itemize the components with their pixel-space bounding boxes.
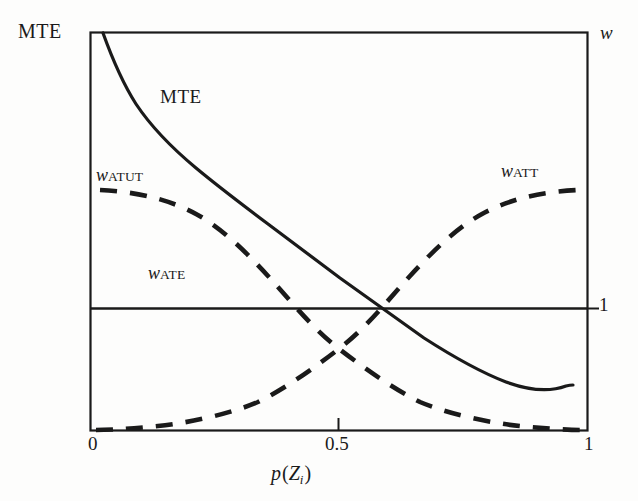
curve-w-att [96,190,578,430]
x-axis-title-base: p [271,462,281,484]
w-atut-symbol: w [96,165,108,185]
y-axis-right-label: w [600,22,613,44]
w-att-symbol: w [501,161,513,181]
w-att-subscript: ATT [513,165,538,180]
chart-canvas [0,0,638,501]
w-ate-symbol: w [148,263,160,283]
x-tick-label-0: 0 [88,433,98,455]
curve-annotation-w-att: wATT [501,160,538,182]
x-axis-title-paren-close: ) [303,462,311,484]
w-atut-subscript: ATUT [108,169,143,184]
curve-annotation-w-atut: wATUT [96,164,143,186]
curve-w-atut [100,190,582,430]
x-tick-label-0.5: 0.5 [325,433,349,455]
curve-annotation-w-ate: wATE [148,262,185,284]
x-axis-title-paren-open: ( [281,462,289,484]
x-axis-title-arg: Z [289,462,300,484]
x-axis-title: p(Zi) [271,462,311,488]
x-tick-label-1: 1 [584,433,594,455]
w-ate-subscript: ATE [160,267,185,282]
y-right-tick-label-1: 1 [599,294,609,316]
figure-container: MTE w p(Zi) 0 0.5 1 1 MTE wATUT wATT wAT… [0,0,638,501]
curve-annotation-mte: MTE [160,86,202,108]
y-axis-left-label: MTE [18,20,62,43]
